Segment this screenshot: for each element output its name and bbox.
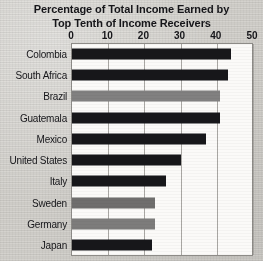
bar-germany	[72, 219, 155, 230]
category-label-colombia: Colombia	[0, 48, 67, 59]
bar-row: South Africa	[0, 64, 263, 85]
category-label-italy: Italy	[0, 176, 67, 187]
bar-row: Germany	[0, 213, 263, 234]
category-label-south-africa: South Africa	[0, 69, 67, 80]
category-label-brazil: Brazil	[0, 91, 67, 102]
bar-brazil	[72, 91, 220, 102]
bar-row: Sweden	[0, 192, 263, 213]
category-label-germany: Germany	[0, 219, 67, 230]
x-tick-label-30: 30	[174, 30, 185, 41]
bar-united-states	[72, 155, 181, 166]
bar-colombia	[72, 48, 231, 59]
x-tick-label-0: 0	[68, 30, 74, 41]
chart-title-line-1: Percentage of Total Income Earned by	[0, 3, 263, 17]
category-label-united-states: United States	[0, 155, 67, 166]
bar-row: Colombia	[0, 43, 263, 64]
bar-row: Italy	[0, 171, 263, 192]
x-tick-label-50: 50	[246, 30, 257, 41]
bar-row: Mexico	[0, 128, 263, 149]
bar-row: Japan	[0, 235, 263, 256]
chart-page: Percentage of Total Income Earned by Top…	[0, 0, 263, 261]
x-tick-label-40: 40	[210, 30, 221, 41]
chart-title: Percentage of Total Income Earned by Top…	[0, 3, 263, 30]
bar-guatemala	[72, 112, 220, 123]
category-label-guatemala: Guatemala	[0, 112, 67, 123]
bar-sweden	[72, 197, 155, 208]
bar-south-africa	[72, 69, 228, 80]
bar-mexico	[72, 133, 206, 144]
bar-japan	[72, 240, 152, 251]
bar-row: Brazil	[0, 86, 263, 107]
chart-title-line-2: Top Tenth of Income Receivers	[0, 17, 263, 31]
x-axis-tick-labels: 01020304050	[71, 30, 252, 43]
x-tick-label-20: 20	[138, 30, 149, 41]
category-label-mexico: Mexico	[0, 133, 67, 144]
bar-italy	[72, 176, 166, 187]
category-label-japan: Japan	[0, 240, 67, 251]
bar-rows: ColombiaSouth AfricaBrazilGuatemalaMexic…	[0, 43, 263, 256]
x-tick-label-10: 10	[102, 30, 113, 41]
bar-row: Guatemala	[0, 107, 263, 128]
category-label-sweden: Sweden	[0, 197, 67, 208]
bar-row: United States	[0, 150, 263, 171]
